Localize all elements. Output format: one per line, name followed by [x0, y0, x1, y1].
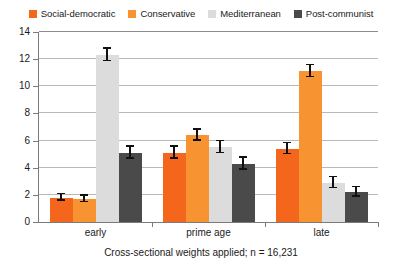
x-tick-label: early	[39, 227, 152, 239]
y-tick-label: 8	[6, 108, 30, 118]
y-tick-label: 6	[6, 136, 30, 146]
error-bar-cap-bottom	[103, 60, 111, 62]
x-axis-tick	[152, 222, 153, 227]
bar[interactable]	[186, 135, 209, 222]
error-bar-cap-top	[126, 145, 134, 147]
bar[interactable]	[322, 183, 345, 222]
bar[interactable]	[276, 149, 299, 222]
x-axis-end-tick	[378, 222, 379, 227]
y-tick-label: 12	[6, 54, 30, 64]
gridline	[39, 85, 378, 86]
error-bar-cap-bottom	[193, 139, 201, 141]
error-bar-cap-bottom	[80, 201, 88, 203]
gridline	[39, 58, 378, 59]
error-bar-cap-top	[80, 194, 88, 196]
plot-area	[39, 32, 378, 222]
bar-chart: Social-democraticConservativeMediterrane…	[0, 0, 402, 272]
error-bar-cap-bottom	[352, 195, 360, 197]
x-axis-tick	[265, 222, 266, 227]
bar[interactable]	[50, 198, 73, 222]
error-bar-cap-bottom	[306, 76, 314, 78]
bar[interactable]	[163, 153, 186, 222]
error-bar-cap-top	[283, 142, 291, 144]
error-bar-cap-bottom	[216, 152, 224, 154]
error-bar-cap-top	[193, 128, 201, 130]
bar[interactable]	[209, 147, 232, 222]
plot-wrapper: 02468101214 earlyprime agelate	[0, 0, 402, 272]
error-bar-cap-top	[170, 145, 178, 147]
chart-caption: Cross-sectional weights applied; n = 16,…	[0, 247, 402, 259]
bar[interactable]	[119, 153, 142, 222]
error-bar-cap-bottom	[239, 168, 247, 170]
bar[interactable]	[73, 199, 96, 222]
error-bar-cap-top	[306, 64, 314, 66]
y-tick-label: 4	[6, 163, 30, 173]
bar[interactable]	[96, 55, 119, 222]
gridline	[39, 112, 378, 113]
y-tick-label: 2	[6, 190, 30, 200]
error-bar-cap-bottom	[170, 157, 178, 159]
error-bar-cap-bottom	[283, 153, 291, 155]
gridline	[39, 140, 378, 141]
x-tick-label: late	[265, 227, 378, 239]
x-axis-line	[38, 222, 379, 223]
error-bar-cap-top	[103, 47, 111, 49]
error-bar-cap-top	[216, 140, 224, 142]
y-tick-label: 10	[6, 81, 30, 91]
y-tick-label: 0	[6, 217, 30, 227]
y-tick-label: 14	[6, 27, 30, 37]
bar[interactable]	[299, 71, 322, 222]
error-bar-cap-top	[239, 156, 247, 158]
error-bar-cap-top	[57, 193, 65, 195]
error-bar-cap-bottom	[329, 187, 337, 189]
error-bar-cap-top	[329, 176, 337, 178]
bar[interactable]	[232, 164, 255, 222]
error-bar-cap-top	[352, 186, 360, 188]
error-bar-cap-bottom	[126, 157, 134, 159]
gridline	[39, 31, 378, 32]
x-tick-label: prime age	[152, 227, 265, 239]
error-bar-cap-bottom	[57, 199, 65, 201]
